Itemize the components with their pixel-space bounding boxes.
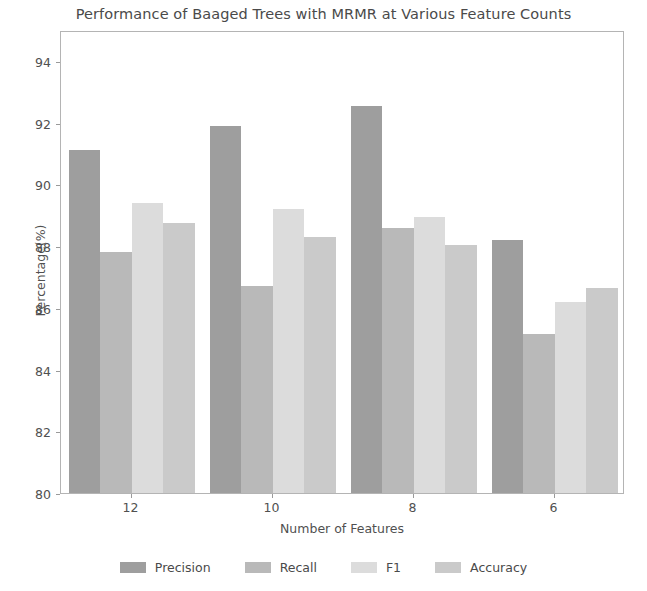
x-tick-label-12: 12 [101,500,161,515]
x-tick-mark-6 [554,494,555,498]
bar-precision-6 [492,240,524,493]
y-tick-label-90: 90 [0,178,51,193]
bar-accuracy-10 [304,237,336,493]
legend-swatch-f1 [351,562,377,573]
bar-recall-10 [241,286,273,493]
x-tick-label-10: 10 [242,500,302,515]
x-axis-label: Number of Features [60,521,624,536]
x-tick-mark-12 [131,494,132,498]
legend-label-f1: F1 [386,560,401,575]
legend-label-recall: Recall [280,560,317,575]
bar-recall-6 [523,334,555,493]
bar-precision-12 [69,150,101,493]
legend-item-f1[interactable]: F1 [351,560,401,575]
y-tick-label-80: 80 [0,487,51,502]
y-tick-mark-84 [56,371,60,372]
bar-accuracy-6 [586,288,618,493]
bar-f1-10 [273,209,305,493]
bar-f1-8 [414,217,446,493]
legend-label-precision: Precision [155,560,211,575]
y-tick-mark-82 [56,432,60,433]
chart-figure: Performance of Baaged Trees with MRMR at… [0,0,647,591]
y-tick-label-94: 94 [0,54,51,69]
y-tick-mark-92 [56,124,60,125]
plot-frame [60,31,624,494]
legend-swatch-recall [245,562,271,573]
y-tick-mark-88 [56,247,60,248]
legend-item-recall[interactable]: Recall [245,560,317,575]
legend-label-accuracy: Accuracy [470,560,527,575]
bar-f1-6 [555,302,587,493]
chart-legend: PrecisionRecallF1Accuracy [0,560,647,575]
x-tick-label-6: 6 [524,500,584,515]
x-tick-mark-8 [413,494,414,498]
bar-accuracy-12 [163,223,195,493]
y-tick-mark-94 [56,62,60,63]
y-tick-mark-80 [56,494,60,495]
y-tick-label-92: 92 [0,116,51,131]
y-tick-label-84: 84 [0,363,51,378]
legend-item-accuracy[interactable]: Accuracy [435,560,527,575]
bar-precision-8 [351,106,383,493]
y-tick-mark-90 [56,185,60,186]
legend-item-precision[interactable]: Precision [120,560,211,575]
x-tick-label-8: 8 [383,500,443,515]
plot-area [61,32,623,493]
y-tick-label-82: 82 [0,425,51,440]
y-axis-label: Percentage(%) [33,196,48,346]
bar-recall-8 [382,228,414,493]
bar-recall-12 [100,252,132,493]
legend-swatch-precision [120,562,146,573]
chart-title: Performance of Baaged Trees with MRMR at… [0,6,647,22]
y-tick-mark-86 [56,309,60,310]
x-tick-mark-10 [272,494,273,498]
legend-swatch-accuracy [435,562,461,573]
bar-accuracy-8 [445,245,477,493]
bar-f1-12 [132,203,164,493]
bar-precision-10 [210,126,242,493]
